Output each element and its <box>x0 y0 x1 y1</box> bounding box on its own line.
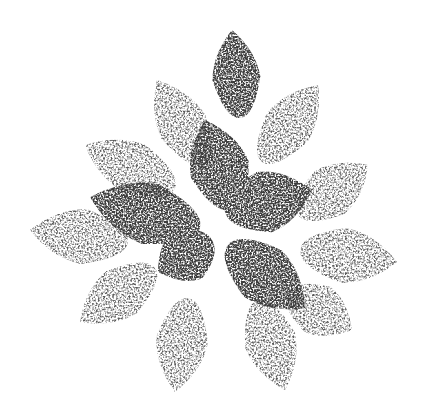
leaf-inner-lower-right <box>225 239 305 309</box>
leaf-bottom-left <box>156 298 208 392</box>
leaf-far-right <box>300 228 397 283</box>
poinsettia-image <box>0 0 425 416</box>
leaf-top <box>212 30 260 118</box>
leaf-bottom-right <box>245 300 297 390</box>
leaf-lower-left <box>80 262 157 323</box>
leaf-upper-right <box>257 85 319 164</box>
